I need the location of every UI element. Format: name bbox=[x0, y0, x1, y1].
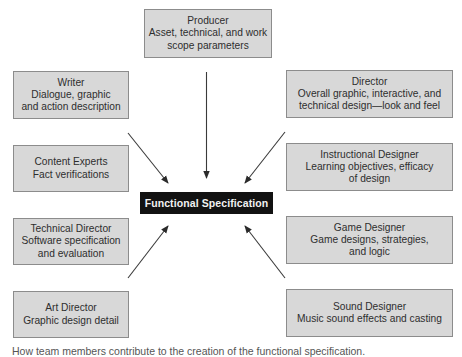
role-desc: Learning objectives, efficacy bbox=[306, 161, 434, 173]
role-desc: and evaluation bbox=[38, 248, 104, 260]
role-box-producer: Producer Asset, technical, and work scop… bbox=[144, 9, 272, 58]
role-box-director: Director Overall graphic, interactive, a… bbox=[286, 70, 453, 118]
role-desc: scope parameters bbox=[167, 40, 249, 52]
role-title: Director bbox=[352, 76, 388, 88]
center-label: Functional Specification bbox=[145, 197, 269, 209]
role-desc: Overall graphic, interactive, and bbox=[298, 88, 441, 100]
role-desc: Fact verifications bbox=[33, 169, 109, 181]
role-box-content-experts: Content Experts Fact verifications bbox=[13, 145, 129, 192]
figure-caption: How team members contribute to the creat… bbox=[12, 345, 365, 357]
role-box-art-director: Art Director Graphic design detail bbox=[13, 291, 129, 338]
role-box-instructional-designer: Instructional Designer Learning objectiv… bbox=[286, 143, 453, 191]
role-desc: Dialogue, graphic bbox=[31, 89, 110, 101]
arrow-game-designer bbox=[245, 226, 285, 278]
role-title: Producer bbox=[187, 15, 228, 27]
role-title: Instructional Designer bbox=[320, 149, 419, 161]
role-title: Technical Director bbox=[31, 223, 112, 235]
role-title: Sound Designer bbox=[333, 301, 406, 313]
role-desc: Software specification bbox=[21, 235, 120, 247]
role-desc: and logic bbox=[349, 246, 390, 258]
role-title: Content Experts bbox=[34, 156, 107, 168]
role-title: Game Designer bbox=[334, 222, 405, 234]
role-box-writer: Writer Dialogue, graphic and action desc… bbox=[13, 71, 129, 119]
role-desc: Game designs, strategies, bbox=[310, 234, 428, 246]
role-title: Art Director bbox=[45, 302, 97, 314]
role-box-sound-designer: Sound Designer Music sound effects and c… bbox=[286, 289, 453, 337]
role-desc: Asset, technical, and work bbox=[149, 27, 267, 39]
role-desc: Music sound effects and casting bbox=[297, 313, 442, 325]
functional-specification-box: Functional Specification bbox=[140, 192, 273, 214]
role-title: Writer bbox=[58, 77, 85, 89]
role-desc: and action description bbox=[21, 101, 120, 113]
role-desc: technical design—look and feel bbox=[299, 100, 440, 112]
arrow-writer bbox=[128, 133, 168, 183]
arrow-director bbox=[245, 132, 285, 183]
role-desc: Graphic design detail bbox=[23, 315, 119, 327]
role-box-game-designer: Game Designer Game designs, strategies, … bbox=[286, 216, 453, 264]
arrow-technical-director bbox=[128, 226, 168, 278]
role-box-technical-director: Technical Director Software specificatio… bbox=[13, 218, 129, 265]
role-desc: of design bbox=[349, 173, 390, 185]
